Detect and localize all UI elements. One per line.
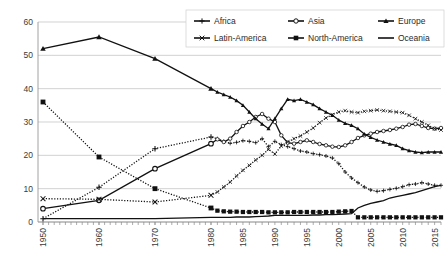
legend-label: Latin-America — [214, 33, 267, 43]
marker-x — [382, 109, 386, 113]
marker-plus — [305, 150, 309, 154]
marker-square-filled — [369, 215, 373, 219]
marker-circle — [337, 145, 341, 149]
x-tick-group: 1980 — [206, 228, 216, 247]
y-axis-tick-labels: 0102030405060 — [24, 17, 34, 227]
marker-circle — [216, 138, 220, 142]
marker-plus — [254, 141, 258, 145]
marker-square-filled — [209, 206, 214, 211]
marker-plus — [228, 141, 232, 145]
x-tick-group: 2015 — [430, 228, 440, 247]
marker-circle — [388, 128, 392, 132]
marker-x — [235, 174, 239, 178]
marker-x — [254, 158, 258, 162]
marker-x — [241, 169, 245, 173]
marker-square-filled — [273, 210, 277, 214]
marker-plus — [388, 187, 392, 191]
marker-square-filled — [311, 210, 315, 214]
marker-circle — [228, 137, 232, 141]
marker-circle — [235, 130, 239, 134]
x-tick-group: 2010 — [398, 228, 408, 247]
legend-label: Europe — [398, 16, 426, 26]
x-tick-label: 1980 — [206, 228, 216, 247]
marker-x — [343, 109, 347, 113]
marker-plus — [394, 186, 398, 190]
marker-x — [248, 164, 252, 168]
data-series-layer — [40, 34, 443, 221]
marker-circle — [153, 166, 158, 171]
marker-square-filled — [407, 215, 411, 219]
y-tick-label: 50 — [24, 50, 34, 60]
series-line-latin-america — [43, 110, 441, 202]
series-line-africa — [43, 137, 441, 219]
marker-square-filled — [375, 215, 379, 219]
marker-x — [305, 130, 309, 134]
marker-circle — [350, 140, 354, 144]
y-tick-label: 60 — [24, 17, 34, 27]
marker-square-filled — [388, 215, 392, 219]
x-tick-label: 1970 — [150, 228, 160, 247]
x-tick-group: 1950 — [38, 228, 48, 247]
marker-plus — [96, 185, 101, 190]
marker-x — [318, 121, 322, 125]
axes — [38, 22, 441, 225]
marker-x — [292, 137, 296, 141]
marker-circle — [356, 136, 360, 140]
chart-container: 0102030405060 19501960197019801985199019… — [0, 0, 445, 265]
marker-square-filled — [234, 210, 238, 214]
marker-plus — [318, 153, 322, 157]
x-tick-group: 1970 — [150, 228, 160, 247]
x-tick-group: 1985 — [238, 228, 248, 247]
gridlines — [38, 22, 441, 222]
marker-square-filled — [343, 209, 347, 213]
marker-square-filled — [337, 210, 341, 214]
marker-circle — [292, 142, 296, 146]
marker-square-filled — [394, 215, 398, 219]
marker-square-filled — [247, 210, 251, 214]
marker-circle — [395, 127, 399, 131]
legend-label: Asia — [308, 16, 325, 26]
marker-square-filled — [401, 215, 405, 219]
marker-x — [209, 193, 214, 198]
marker-plus — [298, 149, 302, 153]
marker-circle — [407, 123, 411, 127]
marker-plus — [208, 134, 213, 139]
marker-plus — [324, 154, 328, 158]
x-tick-label: 1995 — [302, 228, 312, 247]
marker-plus — [286, 145, 290, 149]
x-tick-label: 1985 — [238, 228, 248, 247]
marker-circle — [241, 124, 245, 128]
marker-plus — [407, 183, 411, 187]
marker-circle — [343, 144, 347, 148]
marker-square-filled — [215, 209, 219, 213]
x-tick-label: 1960 — [94, 228, 104, 247]
marker-square-filled — [41, 100, 46, 105]
x-tick-label: 1990 — [270, 228, 280, 247]
marker-circle — [299, 140, 303, 144]
x-tick-label: 2010 — [398, 228, 408, 247]
marker-square-filled — [426, 215, 430, 219]
marker-circle — [294, 19, 298, 23]
y-tick-label: 0 — [28, 217, 33, 227]
marker-square-filled — [153, 186, 158, 191]
marker-square-filled — [356, 215, 360, 219]
marker-square-filled — [298, 210, 302, 214]
x-tick-label: 2015 — [430, 228, 440, 247]
marker-square-filled — [324, 210, 328, 214]
marker-plus — [247, 139, 251, 143]
x-tick-group: 2000 — [334, 228, 344, 247]
marker-plus — [330, 156, 334, 160]
marker-square-filled — [260, 210, 264, 214]
marker-plus — [235, 140, 239, 144]
marker-square-filled — [305, 210, 309, 214]
marker-circle — [420, 124, 424, 128]
marker-square-filled — [97, 155, 102, 160]
marker-square-filled — [294, 36, 299, 41]
marker-square-filled — [317, 210, 321, 214]
x-tick-group: 1990 — [270, 228, 280, 247]
series-africa — [40, 134, 443, 221]
marker-plus — [381, 189, 385, 193]
marker-circle — [305, 139, 309, 143]
marker-x — [363, 110, 367, 114]
marker-plus — [375, 189, 379, 193]
